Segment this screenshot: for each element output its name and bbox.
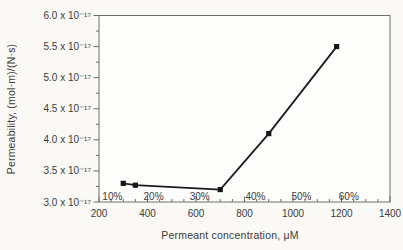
concentration-percent-label: 50% (291, 191, 311, 202)
y-tick-label: 4.5 x 10⁻¹⁷ (43, 103, 91, 114)
y-tick-label: 3.5 x 10⁻¹⁷ (43, 165, 91, 176)
x-tick-label: 800 (236, 208, 253, 219)
y-tick-label: 6.0 x 10⁻¹⁷ (43, 10, 91, 21)
plot-svg: 2004006008001000120014003.0 x 10⁻¹⁷3.5 x… (0, 0, 403, 250)
y-tick-label: 3.0 x 10⁻¹⁷ (43, 197, 91, 208)
y-axis-title: Permeability, (mol·m)/(N·s) (5, 44, 17, 175)
concentration-percent-label: 40% (245, 191, 265, 202)
concentration-percent-label: 20% (144, 191, 164, 202)
data-point-marker (334, 44, 339, 49)
y-tick-label: 5.5 x 10⁻¹⁷ (43, 41, 91, 52)
x-tick-label: 400 (139, 208, 156, 219)
data-point-marker (266, 131, 271, 136)
x-axis-title: Permeant concentration, μM (50, 229, 403, 241)
y-tick-label: 5.0 x 10⁻¹⁷ (43, 72, 91, 83)
concentration-percent-label: 30% (190, 191, 210, 202)
x-tick-label: 600 (188, 208, 205, 219)
x-tick-label: 1200 (330, 208, 353, 219)
plot-frame (99, 16, 390, 203)
concentration-percent-label: 60% (339, 191, 359, 202)
permeability-chart: 2004006008001000120014003.0 x 10⁻¹⁷3.5 x… (0, 0, 403, 250)
concentration-percent-label: 10% (102, 191, 122, 202)
data-point-marker (218, 187, 223, 192)
data-point-marker (133, 183, 138, 188)
data-point-marker (121, 181, 126, 186)
x-tick-label: 1000 (282, 208, 305, 219)
x-tick-label: 200 (91, 208, 108, 219)
x-tick-label: 1400 (379, 208, 402, 219)
y-tick-label: 4.0 x 10⁻¹⁷ (43, 134, 91, 145)
